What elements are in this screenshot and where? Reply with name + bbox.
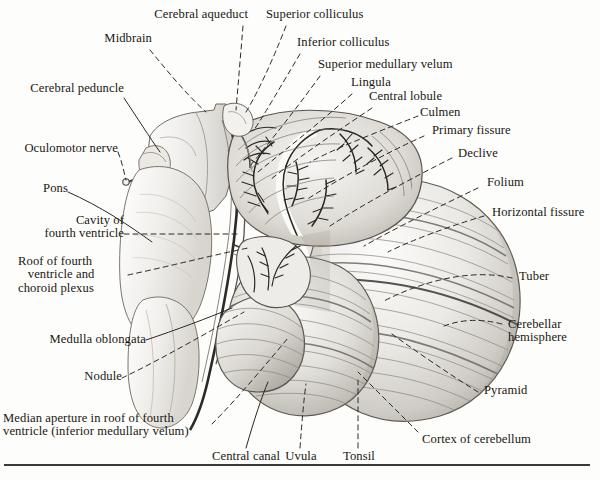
leader-midbrain <box>150 50 206 112</box>
bottom-rule <box>4 464 590 466</box>
leader-superior-colliculus <box>246 26 286 112</box>
label-pyramid: Pyramid <box>484 384 527 397</box>
label-cerebellar-hemisphere: Cerebellar hemisphere <box>508 318 567 345</box>
label-oculomotor-nerve: Oculomotor nerve <box>0 142 118 155</box>
label-cortex-of-cerebellum: Cortex of cerebellum <box>422 433 531 446</box>
label-cerebral-aqueduct: Cerebral aqueduct <box>90 8 248 21</box>
label-declive: Declive <box>458 147 498 160</box>
label-superior-colliculus: Superior colliculus <box>266 8 363 21</box>
label-cerebral-peduncle: Cerebral peduncle <box>0 82 124 95</box>
anatomical-plate: Midbrain Cerebral aqueduct Superior coll… <box>0 0 600 480</box>
label-culmen: Culmen <box>420 106 460 119</box>
leader-oculomotor-nerve <box>118 152 126 180</box>
cerebellar-tonsil <box>216 296 305 392</box>
label-roof-of-fourth-ventricle: Roof of fourth ventricle and choroid ple… <box>0 255 128 295</box>
cerebellum-vermis <box>228 110 423 246</box>
label-medulla-oblongata: Medulla oblongata <box>0 333 146 346</box>
medulla-body <box>128 297 199 428</box>
label-tuber: Tuber <box>519 270 549 283</box>
label-inferior-colliculus: Inferior colliculus <box>297 36 389 49</box>
label-folium: Folium <box>487 176 524 189</box>
label-tonsil: Tonsil <box>325 450 393 463</box>
label-primary-fissure: Primary fissure <box>432 124 511 137</box>
label-pons: Pons <box>0 182 68 195</box>
label-superior-medullary-velum: Superior medullary velum <box>318 58 453 71</box>
label-horizontal-fissure: Horizontal fissure <box>492 206 584 219</box>
label-midbrain: Midbrain <box>0 32 152 45</box>
label-cavity-of-fourth-ventricle: Cavity of fourth ventricle <box>0 214 124 241</box>
label-median-aperture: Median aperture in roof of fourth ventri… <box>3 412 189 439</box>
leader-cerebral-peduncle <box>124 98 160 152</box>
leader-cerebral-aqueduct <box>236 26 243 110</box>
label-lingula: Lingula <box>351 76 391 89</box>
label-nodule: Nodule <box>0 370 122 383</box>
label-central-lobule: Central lobule <box>369 90 442 103</box>
